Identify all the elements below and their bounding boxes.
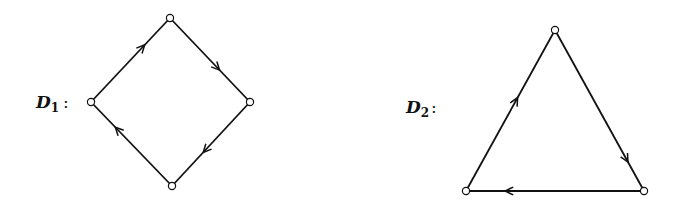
vertex-left	[462, 187, 469, 194]
vertex-top	[551, 26, 558, 33]
digraph-d1	[87, 14, 253, 189]
vertex-bottom	[168, 182, 175, 189]
edge-bottom-left	[91, 102, 172, 186]
vertex-right	[640, 187, 647, 194]
vertex-left	[87, 98, 94, 105]
edge-left-top	[466, 30, 555, 191]
diagram-canvas	[0, 0, 673, 215]
edge-right-bottom	[172, 102, 250, 186]
edge-left-top	[91, 18, 170, 102]
edge-top-right	[170, 18, 250, 102]
digraph-d2	[462, 26, 647, 195]
vertex-top	[166, 14, 173, 21]
vertex-right	[246, 98, 253, 105]
edge-top-right	[555, 30, 644, 191]
